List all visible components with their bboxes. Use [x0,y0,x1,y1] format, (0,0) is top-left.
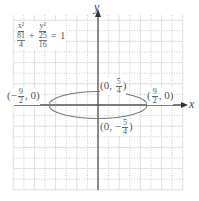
x-den-den: 4 [19,41,23,49]
point-label-top: (0, 54) [100,78,126,95]
equation-term-x: x² 81 4 [17,22,25,49]
equation-rhs: 1 [60,30,65,41]
y-den-den: 16 [39,41,47,49]
x-axis-label: x [189,97,194,112]
equation-term-y: y² 25 16 [39,22,47,49]
point-label-bottom: (0, −54) [100,119,133,136]
point-label-left: (−92, 0) [7,88,40,105]
x-squared: x² [18,22,24,30]
plus-sign: + [29,30,35,41]
point-label-right: (92, 0) [147,88,173,105]
equals-sign: = [51,30,57,41]
x-axis-arrow-icon [181,102,188,108]
y-squared: y² [39,22,45,30]
ellipse-equation: x² 81 4 + y² 25 16 = 1 [16,21,66,50]
y-axis-label: y [94,0,99,15]
